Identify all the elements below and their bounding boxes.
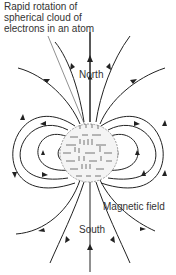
- caption-line-2: spherical cloud of: [4, 12, 94, 23]
- left-loop-arrowheads: [12, 114, 48, 178]
- caption-line-3: electrons in an atom: [4, 23, 94, 34]
- caption-electron-cloud: Rapid rotation of spherical cloud of ele…: [4, 1, 94, 34]
- caption-leader-line: [48, 36, 86, 128]
- electron-cloud-sphere: [60, 124, 118, 182]
- caption-line-1: Rapid rotation of: [4, 1, 94, 12]
- north-label: North: [79, 69, 103, 80]
- south-label: South: [79, 224, 105, 235]
- magnetic-field-label: Magnetic field: [103, 201, 165, 212]
